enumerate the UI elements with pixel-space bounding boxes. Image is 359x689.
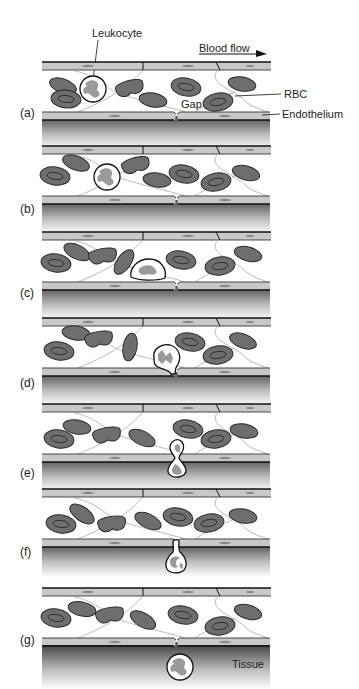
leukocyte-label: Leukocyte — [92, 27, 142, 39]
panel-label-b: (b) — [20, 202, 35, 216]
leukocyte — [80, 76, 106, 102]
panel-d: (d) — [20, 318, 271, 406]
blood-flow-label-group: Blood flow — [199, 42, 267, 57]
panel-g: Tissue (g) — [20, 588, 271, 689]
panel-label-a: (a) — [20, 106, 35, 120]
leukocyte — [94, 164, 120, 190]
leukocyte — [131, 259, 166, 280]
panel-a: (a) — [20, 62, 271, 150]
arrow-right-icon — [256, 50, 267, 57]
panel-f: (f) — [20, 489, 271, 577]
panel-label-c: (c) — [20, 286, 34, 300]
panel-label-g: (g) — [20, 633, 35, 647]
panel-label-d: (d) — [20, 376, 35, 390]
gap-label: Gap — [181, 98, 202, 110]
diapedesis-diagram: Leukocyte Blood flow (a) RBC Gap Endothe… — [0, 0, 359, 689]
panel-label-e: (e) — [20, 466, 35, 480]
blood-flow-label: Blood flow — [199, 42, 250, 54]
panel-label-f: (f) — [20, 545, 31, 559]
leukocyte-label-group: Leukocyte — [92, 27, 142, 80]
panel-e: (e) — [20, 404, 271, 492]
tissue-label: Tissue — [232, 658, 264, 670]
panel-c: (c) — [20, 232, 271, 320]
rbc-label: RBC — [284, 88, 307, 100]
leukocyte — [167, 654, 193, 680]
panel-b: (b) — [20, 146, 271, 234]
endothelium-label: Endothelium — [282, 108, 343, 120]
